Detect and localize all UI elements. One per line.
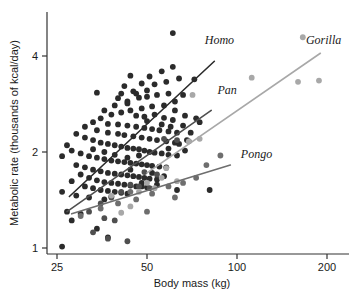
data-point <box>105 141 111 147</box>
data-point <box>105 121 111 127</box>
data-point <box>130 88 136 94</box>
species-label-pongo: Pongo <box>240 147 272 161</box>
data-point <box>90 229 96 235</box>
y-axis-tick-label: 1 <box>32 242 38 254</box>
data-point <box>174 137 180 143</box>
data-point <box>130 173 136 179</box>
y-axis-tick-label: 4 <box>32 50 38 62</box>
data-point <box>133 197 139 203</box>
data-point <box>172 195 178 201</box>
data-point <box>69 178 75 184</box>
data-point <box>125 101 131 107</box>
data-point <box>94 90 100 96</box>
data-point <box>149 103 155 109</box>
data-point <box>316 78 322 84</box>
data-point <box>78 150 84 156</box>
data-point <box>82 164 88 170</box>
data-point <box>118 91 124 97</box>
data-point <box>127 182 133 188</box>
data-point <box>182 113 188 119</box>
data-point <box>115 181 121 187</box>
data-point <box>163 79 169 85</box>
data-point <box>163 165 169 171</box>
data-point <box>125 155 131 161</box>
data-point <box>166 146 172 152</box>
data-point <box>121 182 127 188</box>
data-point <box>118 189 124 195</box>
data-point <box>139 161 145 167</box>
data-point <box>118 210 124 216</box>
data-point <box>98 115 104 121</box>
data-point <box>121 83 127 89</box>
data-point <box>59 153 65 159</box>
species-label-homo: Homo <box>204 33 234 47</box>
data-point <box>207 187 213 193</box>
data-point <box>154 137 160 143</box>
data-point <box>105 188 111 194</box>
data-point <box>90 137 96 143</box>
data-point <box>188 130 194 136</box>
data-point <box>152 81 158 87</box>
data-point <box>94 155 100 161</box>
x-axis-tick-label: 100 <box>228 261 246 273</box>
data-point <box>141 175 147 181</box>
data-point <box>125 238 131 244</box>
data-point <box>141 148 147 154</box>
data-point <box>90 119 96 125</box>
data-point <box>115 131 121 137</box>
data-point <box>156 127 162 133</box>
data-point <box>59 189 65 195</box>
data-point <box>203 162 209 168</box>
data-point <box>90 185 96 191</box>
data-point <box>125 123 131 129</box>
data-point <box>115 158 121 164</box>
data-point <box>73 131 79 137</box>
x-axis-tick-label: 25 <box>51 261 63 273</box>
data-point <box>161 115 167 121</box>
data-point <box>112 171 118 177</box>
data-point <box>144 162 150 168</box>
data-point <box>112 142 118 148</box>
data-point <box>172 108 178 114</box>
data-point <box>159 150 165 156</box>
x-axis-tick-label: 200 <box>318 261 336 273</box>
data-point <box>69 148 75 154</box>
data-point <box>98 140 104 146</box>
data-point <box>115 122 121 128</box>
data-point <box>69 218 75 224</box>
data-point <box>130 146 136 152</box>
data-point <box>82 135 88 141</box>
data-point <box>101 215 107 221</box>
data-point <box>94 177 100 183</box>
data-point <box>168 124 174 130</box>
data-point <box>78 213 84 219</box>
data-point <box>94 127 100 133</box>
data-point <box>136 184 142 190</box>
data-point <box>170 30 176 36</box>
data-point <box>127 204 133 210</box>
data-point <box>190 92 196 98</box>
data-point <box>174 187 180 193</box>
data-point <box>82 124 88 130</box>
data-point <box>249 75 255 81</box>
data-point <box>133 124 139 130</box>
data-point <box>105 130 111 136</box>
data-point <box>295 79 301 85</box>
chart-container: 1242550100200Body mass (kg)Metabolic rat… <box>0 0 356 295</box>
data-point <box>101 149 107 155</box>
data-point <box>127 189 133 195</box>
plot-background <box>0 0 356 295</box>
data-point <box>159 68 165 74</box>
data-point <box>154 172 160 178</box>
species-label-gorilla: Gorilla <box>306 33 341 47</box>
data-point <box>147 74 153 80</box>
data-point <box>118 110 124 116</box>
data-point <box>136 174 142 180</box>
data-point <box>147 136 153 142</box>
x-axis-tick-label: 50 <box>141 261 153 273</box>
data-point <box>141 169 147 175</box>
data-point <box>166 91 172 97</box>
data-point <box>154 92 160 98</box>
data-point <box>180 123 186 129</box>
data-point <box>115 200 121 206</box>
